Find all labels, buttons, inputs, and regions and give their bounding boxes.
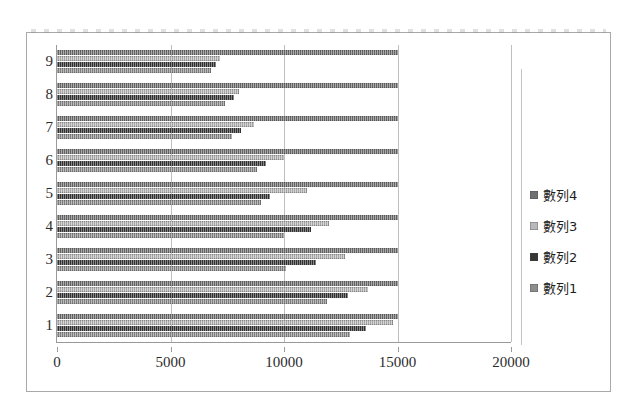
x-tick-label: 5000	[156, 354, 186, 371]
bar	[57, 116, 398, 121]
bar	[57, 194, 270, 199]
bar	[57, 281, 398, 286]
legend-swatch-icon	[530, 284, 538, 292]
y-tick-label: 4	[31, 210, 53, 243]
bar-group	[57, 276, 511, 309]
bar	[57, 254, 345, 259]
bar	[57, 287, 368, 292]
bar	[57, 62, 216, 67]
bar	[57, 188, 307, 193]
bar	[57, 101, 225, 106]
x-axis-tick-labels: 05000100001500020000	[57, 347, 511, 369]
x-tick-mark	[57, 347, 58, 352]
bar-group	[57, 45, 511, 78]
x-tick-label: 10000	[265, 354, 303, 371]
bar	[57, 83, 398, 88]
bar-group	[57, 177, 511, 210]
bar	[57, 266, 286, 271]
plot-legend-divider	[521, 69, 522, 345]
bar	[57, 332, 350, 337]
bar	[57, 215, 398, 220]
legend-swatch-icon	[530, 191, 538, 199]
x-tick-mark	[171, 347, 172, 352]
bar	[57, 161, 266, 166]
bar-rows	[57, 45, 511, 342]
bar-group	[57, 144, 511, 177]
chart-frame: 987654321 05000100001500020000 數列4數列3數列2…	[26, 32, 611, 392]
bar	[57, 167, 257, 172]
bar-group	[57, 111, 511, 144]
legend-item[interactable]: 數列1	[530, 278, 608, 297]
legend-label: 數列1	[543, 278, 577, 297]
legend-item[interactable]: 數列4	[530, 185, 608, 204]
bar	[57, 122, 254, 127]
plot-area: 987654321 05000100001500020000	[56, 45, 511, 343]
y-tick-label: 2	[31, 276, 53, 309]
x-tick-mark	[398, 347, 399, 352]
y-tick-label: 7	[31, 111, 53, 144]
bar	[57, 320, 393, 325]
bar	[57, 134, 232, 139]
x-tick-mark	[284, 347, 285, 352]
bar	[57, 326, 366, 331]
x-tick-label: 15000	[379, 354, 417, 371]
bar	[57, 50, 398, 55]
legend-label: 數列4	[543, 185, 577, 204]
bar	[57, 89, 239, 94]
bar	[57, 200, 261, 205]
legend-swatch-icon	[530, 222, 538, 230]
bar-group	[57, 243, 511, 276]
y-tick-label: 8	[31, 78, 53, 111]
bar	[57, 95, 234, 100]
bar	[57, 227, 311, 232]
bar	[57, 314, 398, 319]
bar	[57, 233, 284, 238]
y-tick-label: 6	[31, 144, 53, 177]
bar	[57, 299, 327, 304]
bar-group	[57, 210, 511, 243]
bar	[57, 182, 398, 187]
x-tick-label: 0	[53, 354, 61, 371]
bar	[57, 128, 241, 133]
bar	[57, 248, 398, 253]
legend-swatch-icon	[530, 253, 538, 261]
y-tick-label: 1	[31, 309, 53, 342]
y-tick-label: 9	[31, 45, 53, 78]
bar	[57, 260, 316, 265]
chart-legend: 數列4數列3數列2數列1	[530, 185, 608, 297]
legend-item[interactable]: 數列2	[530, 247, 608, 266]
x-tick-label: 20000	[492, 354, 530, 371]
bar	[57, 68, 211, 73]
bar-group	[57, 78, 511, 111]
gridline	[511, 45, 512, 342]
bar	[57, 221, 329, 226]
legend-label: 數列2	[543, 247, 577, 266]
x-tick-mark	[511, 347, 512, 352]
bar	[57, 155, 284, 160]
bar	[57, 56, 220, 61]
bar	[57, 293, 348, 298]
y-axis-tick-labels: 987654321	[31, 45, 53, 342]
scan-artifact	[31, 29, 606, 33]
legend-item[interactable]: 數列3	[530, 216, 608, 235]
y-tick-label: 5	[31, 177, 53, 210]
legend-label: 數列3	[543, 216, 577, 235]
bar-group	[57, 309, 511, 342]
bar	[57, 149, 398, 154]
y-tick-label: 3	[31, 243, 53, 276]
